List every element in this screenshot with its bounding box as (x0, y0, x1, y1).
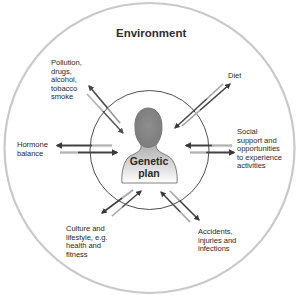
factor-label-accidents: Accidents, injuries and infections (198, 228, 236, 254)
social-arrow-pair (186, 146, 234, 153)
center-label: Genetic plan (118, 156, 180, 179)
hormone-arrow-pair (57, 146, 117, 153)
environment-genetics-diagram: Environment Genetic plan Pollution, drug… (0, 0, 299, 295)
factor-label-culture: Culture and lifestyle, e.g. health and f… (66, 225, 107, 259)
factor-label-pollution: Pollution, drugs, alcohol, tobacco smoke (51, 59, 82, 102)
factor-label-social: Social support and opportunities to expe… (237, 128, 282, 171)
center-label-line2: plan (118, 168, 180, 180)
diet-arrow-pair (175, 84, 230, 128)
diagram-title: Environment (116, 27, 186, 39)
pollution-arrow-pair (87, 86, 123, 133)
factor-label-diet: Diet (228, 72, 241, 81)
center-label-line1: Genetic (118, 156, 180, 168)
factor-label-hormone: Hormone balance (17, 141, 48, 158)
